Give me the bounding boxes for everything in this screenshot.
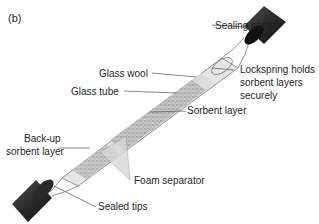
- label-backup-line2: sorbent layer: [6, 146, 64, 158]
- bottom-sealing-cap: [12, 176, 57, 222]
- label-sealing-caps: Sealing caps: [215, 20, 272, 32]
- label-lockspring-line2: sorbent layers: [240, 77, 303, 89]
- label-sorbent-layer: Sorbent layer: [187, 105, 246, 117]
- label-sealed-tips: Sealed tips: [98, 201, 147, 213]
- label-backup-line1: Back-up: [24, 133, 61, 145]
- sorbent-tube-illustration: [0, 0, 319, 224]
- label-lockspring-line3: securely: [240, 90, 277, 102]
- glass-tube: [50, 38, 250, 196]
- panel-label: (b): [8, 12, 21, 24]
- label-glass-wool: Glass wool: [99, 68, 148, 80]
- label-foam-separator: Foam separator: [134, 175, 205, 187]
- label-lockspring-line1: Lockspring holds: [240, 64, 315, 76]
- label-glass-tube: Glass tube: [71, 86, 119, 98]
